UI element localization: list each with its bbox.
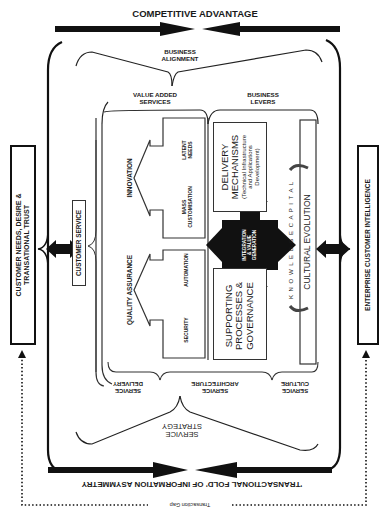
- customer-needs-label: CUSTOMER NEEDS, DESIRE & TRANSATIONAL TR…: [15, 194, 30, 297]
- competitive-advantage-arrows: [55, 22, 340, 36]
- customer-brace: [38, 70, 48, 440]
- service-strategy-line2: STRATEGY: [162, 422, 202, 430]
- delivery-line2: MECHANISMS: [230, 135, 240, 199]
- service-culture-line2: CULTURE: [281, 380, 309, 387]
- transaction-gap-label: Transaction Gap: [170, 502, 210, 508]
- mass-customisation-label: MASS CUSTOMISATION: [182, 186, 193, 227]
- delivery-sub2: and Applications: [247, 135, 254, 199]
- customer-needs-line1: CUSTOMER NEEDS, DESIRE &: [15, 194, 23, 297]
- bottom-service-braces: [108, 362, 318, 380]
- knowledge-capital-label: K N O W L E D G E C A P I T A L: [288, 181, 295, 299]
- service-delivery-line2: DELIVERY: [113, 380, 143, 387]
- service-delivery-label: SERVICE DELIVERY: [113, 380, 143, 393]
- innovation-label: INNOVATION: [126, 158, 133, 197]
- security-label: SECURITY: [184, 317, 190, 342]
- business-alignment-line2: ALIGNMENT: [162, 56, 199, 63]
- customer-service-brace: [88, 140, 96, 372]
- transactional-fold-label: 'TRANSACTIONAL FOLD' OF INFORMATION ASYM…: [82, 480, 303, 489]
- service-strategy-label: SERVICE STRATEGY: [162, 422, 202, 439]
- business-alignment-brace: [76, 50, 322, 86]
- service-culture-label: SERVICE CULTURE: [281, 380, 309, 393]
- business-levers-label: BUSINESS LEVERS: [247, 92, 279, 106]
- service-strategy-line1: SERVICE: [162, 430, 202, 438]
- integration-value-generation-label: INTEGRATION & VALUE GENERATION: [242, 229, 257, 260]
- supporting-line3: GOVERNANCE: [245, 282, 255, 350]
- automation-label: AUTOMATION: [184, 253, 190, 286]
- service-architecture-label: SERVICE ARCHITECTURE: [191, 380, 238, 393]
- quality-assurance-arrow-shape: [134, 250, 205, 358]
- transactional-fold-arrows: [48, 462, 332, 478]
- competitive-advantage-label: COMPETITIVE ADVANTAGE: [132, 9, 257, 19]
- enterprise-brace: [340, 70, 350, 440]
- service-culture-line1: SERVICE: [281, 387, 309, 394]
- delivery-sub3: Development): [254, 135, 261, 199]
- service-delivery-line1: SERVICE: [113, 387, 143, 394]
- delivery-mechanisms-label: DELIVERY MECHANISMS (Technical Infrastru…: [220, 135, 261, 199]
- delivery-sub1: (Technical Infrastructure: [241, 135, 248, 199]
- customer-needs-line2: TRANSATIONAL TRUST: [23, 194, 31, 297]
- enterprise-ci-label: ENTERPRISE CUSTOMER INTELLIGENCE: [364, 179, 371, 311]
- value-added-line2: SERVICES: [133, 99, 177, 106]
- latent-needs-line2: NEEDS: [187, 140, 193, 159]
- value-added-services-label: VALUE ADDED SERVICES: [133, 92, 177, 106]
- quality-assurance-label: QUALITY ASSURANCE: [126, 255, 133, 325]
- cultural-evolution-label: CULTURAL EVOLUTION: [303, 194, 312, 289]
- mass-custom-line2: CUSTOMISATION: [187, 186, 193, 227]
- business-levers-line2: LEVERS: [247, 99, 279, 106]
- service-architecture-line1: SERVICE: [191, 387, 238, 394]
- business-alignment-label: BUSINESS ALIGNMENT: [162, 49, 199, 63]
- integration-line3: GENERATION: [253, 229, 258, 260]
- innovation-arrow-shape: [134, 118, 205, 238]
- value-added-container: [96, 118, 112, 386]
- customer-service-label: CUSTOMER SERVICE: [75, 210, 82, 276]
- latent-needs-label: LATENT NEEDS: [182, 140, 193, 159]
- service-architecture-line2: ARCHITECTURE: [191, 380, 238, 387]
- enterprise-double-arrow: [316, 240, 350, 258]
- supporting-processes-label: SUPPORTING PROCESSES & GOVERNANCE: [224, 282, 255, 350]
